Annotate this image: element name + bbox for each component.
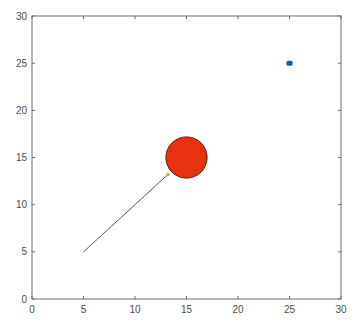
y-tick-label: 5 xyxy=(21,246,27,257)
target-point-marker xyxy=(287,61,293,66)
y-tick-label: 15 xyxy=(16,152,28,163)
y-tick-label: 0 xyxy=(21,294,27,305)
y-tick-label: 30 xyxy=(16,11,28,22)
x-tick-label: 25 xyxy=(284,304,296,315)
agent-point-marker xyxy=(166,173,170,177)
x-tick-label: 30 xyxy=(335,304,347,315)
x-tick-label: 5 xyxy=(81,304,87,315)
obstacle-circle xyxy=(166,137,207,178)
y-tick-label: 25 xyxy=(16,58,28,69)
x-tick-label: 10 xyxy=(129,304,141,315)
x-tick-label: 20 xyxy=(232,304,244,315)
y-tick-label: 10 xyxy=(16,199,28,210)
y-tick-label: 20 xyxy=(16,105,28,116)
x-tick-label: 0 xyxy=(29,304,35,315)
x-tick-label: 15 xyxy=(181,304,193,315)
figure: 051015202530 051015202530 xyxy=(0,0,357,329)
